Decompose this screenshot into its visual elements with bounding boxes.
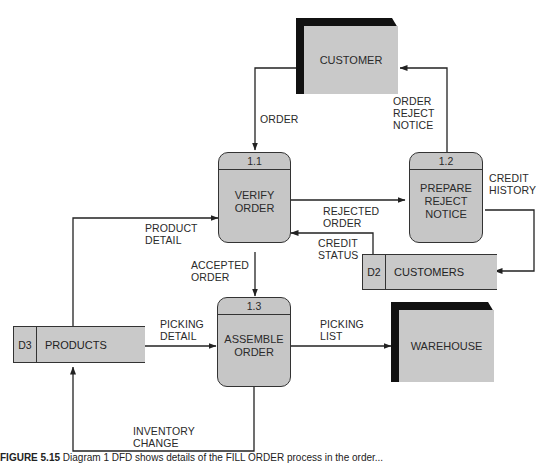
entity-label: WAREHOUSE <box>399 310 494 382</box>
store-label: CUSTOMERS <box>386 255 464 289</box>
external-entity-warehouse[interactable]: WAREHOUSE <box>391 302 494 382</box>
flow-label-accepted-order: ACCEPTED ORDER <box>191 259 249 283</box>
store-id: D2 <box>363 255 386 289</box>
process-assemble-order[interactable]: 1.3 ASSEMBLE ORDER <box>217 297 291 387</box>
process-name: PREPARE REJECT NOTICE <box>410 169 482 242</box>
flow-label-product-detail: PRODUCT DETAIL <box>145 222 198 246</box>
data-store-customers[interactable]: D2 CUSTOMERS <box>362 254 497 290</box>
store-id: D3 <box>14 327 37 362</box>
caption-text: Diagram 1 DFD shows details of the FILL … <box>63 452 383 463</box>
process-verify-order[interactable]: 1.1 VERIFY ORDER <box>218 152 291 243</box>
flow-label-picking-list: PICKING LIST <box>320 318 364 342</box>
process-id: 1.3 <box>218 298 290 315</box>
entity-label: CUSTOMER <box>304 26 398 94</box>
flow-label-credit-history: CREDIT HISTORY <box>489 172 536 196</box>
flow-order <box>255 68 296 150</box>
flow-label-order-reject-notice: ORDER REJECT NOTICE <box>393 95 434 131</box>
figure-number: FIGURE 5.15 <box>0 452 60 463</box>
process-id: 1.1 <box>219 153 290 170</box>
process-id: 1.2 <box>410 153 482 170</box>
figure-caption: FIGURE 5.15 Diagram 1 DFD shows details … <box>0 452 383 463</box>
flow-label-order: ORDER <box>260 113 298 125</box>
external-entity-customer[interactable]: CUSTOMER <box>296 18 398 94</box>
flow-label-rejected-order: REJECTED ORDER <box>323 205 379 229</box>
data-store-products[interactable]: D3 PRODUCTS <box>13 326 145 363</box>
store-label: PRODUCTS <box>37 327 107 362</box>
process-prepare-reject-notice[interactable]: 1.2 PREPARE REJECT NOTICE <box>409 152 483 243</box>
process-name: ASSEMBLE ORDER <box>218 314 290 386</box>
flow-label-inventory-change: INVENTORY CHANGE <box>133 425 195 449</box>
flow-label-picking-detail: PICKING DETAIL <box>160 318 204 342</box>
flow-label-credit-status: CREDIT STATUS <box>318 237 358 261</box>
process-name: VERIFY ORDER <box>219 169 290 242</box>
